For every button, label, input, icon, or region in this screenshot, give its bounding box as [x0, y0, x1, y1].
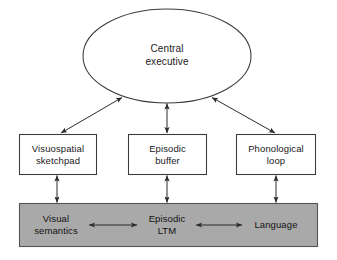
crystallized-systems-band [20, 204, 318, 247]
central-executive-ellipse [83, 9, 251, 103]
episodic-buffer-box [129, 135, 207, 175]
arrow-central-executive-phonological-loop [212, 98, 275, 134]
phonological-loop-box [237, 135, 316, 175]
diagram-graphics-layer [0, 0, 337, 260]
arrow-central-executive-visuospatial-sketchpad [61, 98, 122, 134]
visuospatial-sketchpad-box [20, 135, 97, 175]
diagram-canvas: Central executive Visuospatial sketchpad… [0, 0, 337, 260]
